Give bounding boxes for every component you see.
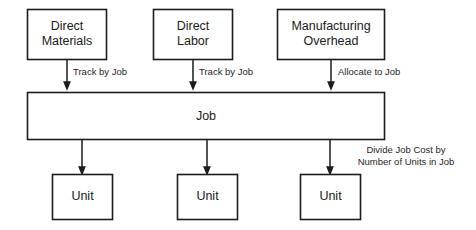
unit-box-2-label: Unit: [196, 189, 219, 203]
source-box-manufacturing-overhead-line1: Manufacturing: [291, 19, 370, 33]
edge-label-labor-to-job: Track by Job: [199, 66, 253, 77]
source-box-direct-labor-line1: Direct: [177, 19, 210, 33]
source-box-manufacturing-overhead[interactable]: Manufacturing Overhead: [278, 10, 385, 60]
job-box-label: Job: [196, 109, 216, 123]
job-costing-diagram: Direct Materials Direct Labor Manufactur…: [0, 0, 476, 230]
source-box-direct-materials[interactable]: Direct Materials: [28, 10, 107, 60]
edge-label-materials-to-job: Track by Job: [73, 66, 127, 77]
unit-box-1-label: Unit: [71, 189, 94, 203]
divide-note-line1: Divide Job Cost by: [366, 144, 445, 155]
unit-box-3-label: Unit: [319, 189, 342, 203]
source-box-direct-materials-line1: Direct: [51, 19, 84, 33]
flow-diagram-canvas: Direct Materials Direct Labor Manufactur…: [0, 0, 476, 230]
source-box-direct-labor-line2: Labor: [177, 34, 209, 48]
divide-note: Divide Job Cost by Number of Units in Jo…: [358, 144, 455, 167]
divide-note-line2: Number of Units in Job: [358, 156, 455, 167]
source-box-direct-materials-line2: Materials: [42, 34, 93, 48]
unit-box-3[interactable]: Unit: [301, 175, 361, 220]
source-box-direct-labor[interactable]: Direct Labor: [154, 10, 233, 60]
source-box-manufacturing-overhead-line2: Overhead: [304, 34, 359, 48]
unit-box-2[interactable]: Unit: [178, 175, 238, 220]
job-box[interactable]: Job: [28, 93, 385, 140]
edge-label-overhead-to-job: Allocate to Job: [338, 66, 400, 77]
unit-box-1[interactable]: Unit: [53, 175, 113, 220]
